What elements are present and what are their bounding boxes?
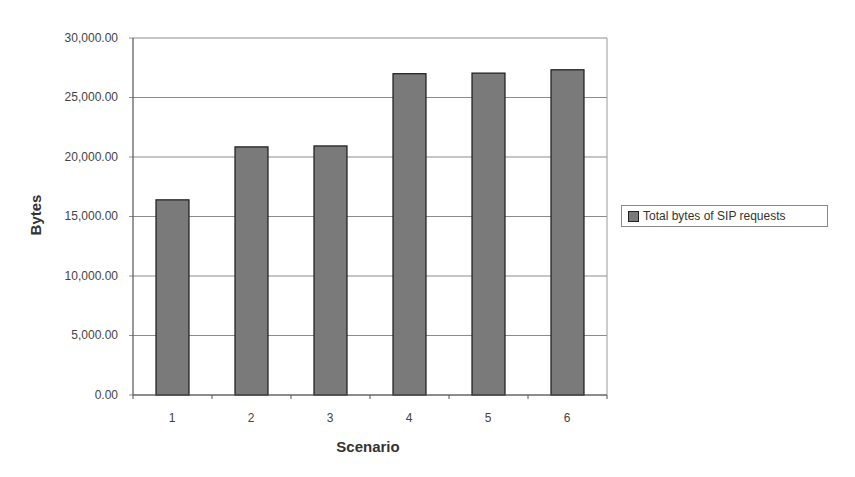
bar — [472, 73, 505, 395]
x-tick-label: 4 — [389, 411, 429, 425]
x-tick-label: 5 — [468, 411, 508, 425]
bars — [156, 70, 584, 395]
x-tick-label: 3 — [310, 411, 350, 425]
y-tick-label: 30,000.00 — [8, 31, 118, 45]
y-tick-label: 15,000.00 — [8, 209, 118, 223]
y-tick-label: 5,000.00 — [8, 328, 118, 342]
x-tick-label: 2 — [231, 411, 271, 425]
legend-swatch-icon — [628, 211, 639, 222]
gridlines — [129, 38, 607, 395]
y-tick-label: 25,000.00 — [8, 90, 118, 104]
bar — [235, 147, 268, 395]
bar — [156, 200, 189, 395]
axes — [133, 38, 607, 399]
x-axis-title: Scenario — [318, 438, 418, 455]
x-tick-label: 1 — [152, 411, 192, 425]
bar — [314, 146, 347, 395]
y-tick-label: 10,000.00 — [8, 269, 118, 283]
bar — [551, 70, 584, 395]
bar-chart: 30,000.00 25,000.00 20,000.00 15,000.00 … — [0, 0, 855, 477]
legend: Total bytes of SIP requests — [621, 205, 828, 227]
y-axis-title: Bytes — [27, 185, 47, 245]
legend-label: Total bytes of SIP requests — [643, 209, 786, 223]
plot-area — [0, 0, 855, 477]
x-tick-label: 6 — [547, 411, 587, 425]
y-tick-label: 0.00 — [8, 388, 118, 402]
y-tick-label: 20,000.00 — [8, 150, 118, 164]
bar — [393, 74, 426, 395]
